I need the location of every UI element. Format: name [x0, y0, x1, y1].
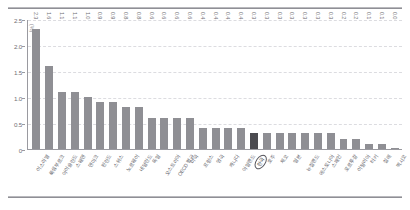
x-axis-tick-slot: 터키	[363, 152, 376, 196]
bar-slot[interactable]: 0.3	[248, 20, 261, 149]
y-axis-tick-label: 1.5	[14, 69, 22, 76]
bar[interactable]: 0.8	[135, 107, 143, 149]
bar-slot[interactable]: 1.6	[43, 20, 56, 149]
bar[interactable]: 0.3	[276, 133, 284, 149]
bar-slot[interactable]: 0.9	[107, 20, 120, 149]
y-axis-tick-label: 1.0	[14, 95, 22, 102]
bar-slot[interactable]: 1.0	[81, 20, 94, 149]
bar-slot[interactable]: 0.3	[324, 20, 337, 149]
bar-slot[interactable]: 0.2	[350, 20, 363, 149]
bar-value-label: 0.4	[213, 12, 219, 19]
bar-slot[interactable]: 0.4	[196, 20, 209, 149]
x-axis-tick-slot: 스웨덴	[67, 152, 80, 196]
bar[interactable]: 0.4	[199, 128, 207, 149]
bar-series: 2.31.61.11.11.00.90.90.80.80.60.60.60.60…	[29, 20, 402, 149]
bar-value-label: 0.1	[379, 12, 385, 19]
bar-value-label: 0.1	[366, 12, 372, 19]
bar-value-label: 0.8	[123, 12, 129, 19]
bar-slot[interactable]: 1.1	[68, 20, 81, 149]
bar[interactable]: 0.6	[148, 118, 156, 149]
x-axis-tick-slot: 이탈리아	[350, 152, 363, 196]
x-axis-tick-slot: 아일랜드	[234, 152, 247, 196]
bar-value-label: 0.3	[251, 12, 257, 19]
plot-area: 2.31.61.11.11.00.90.90.80.80.60.60.60.60…	[27, 20, 402, 150]
bar-slot[interactable]: 2.3	[30, 20, 43, 149]
top-divider-rule	[8, 7, 402, 9]
bar-slot[interactable]: 0.1	[363, 20, 376, 149]
bar[interactable]: 0.2	[340, 139, 348, 149]
bar-slot[interactable]: 0.4	[222, 20, 235, 149]
bar[interactable]: 0.3	[301, 133, 309, 149]
bar-slot[interactable]: 0.8	[120, 20, 133, 149]
bar[interactable]: 0.3	[314, 133, 322, 149]
bar-slot[interactable]: 0.1	[376, 20, 389, 149]
bar-slot[interactable]: 0.3	[260, 20, 273, 149]
bar-value-label: 0.4	[225, 12, 231, 19]
bar-value-label: 0.6	[161, 12, 167, 19]
bar-slot[interactable]: 0.6	[158, 20, 171, 149]
x-axis-tick-slot: 한국	[247, 152, 260, 196]
bar[interactable]: 0.9	[96, 102, 104, 149]
bar-slot[interactable]: 0.6	[171, 20, 184, 149]
bar[interactable]: 0.1	[378, 144, 386, 149]
bar[interactable]: 0.3	[288, 133, 296, 149]
x-axis-tick-slot: 영국	[209, 152, 222, 196]
y-axis-tick-label: 0.5	[14, 121, 22, 128]
bar-slot[interactable]: 0.4	[235, 20, 248, 149]
bar-slot[interactable]: 0.2	[337, 20, 350, 149]
y-axis: 00.51.01.52.02.5	[0, 20, 26, 150]
bar[interactable]: 0.2	[352, 139, 360, 149]
bar-value-label: 2.3	[33, 12, 39, 19]
bar[interactable]: 1.1	[58, 92, 66, 149]
y-axis-tick-mark	[22, 124, 25, 125]
bar[interactable]: 0.4	[224, 128, 232, 149]
bar-value-label: 0.3	[302, 12, 308, 19]
bar-value-label: 0.3	[315, 12, 321, 19]
x-axis-tick-label: 멕시코	[394, 153, 408, 169]
x-axis-tick-slot: 프랑스	[196, 152, 209, 196]
bar[interactable]: 0.0	[391, 148, 399, 149]
bar-slot[interactable]: 0.3	[286, 20, 299, 149]
bar[interactable]: 0.9	[109, 102, 117, 149]
bar[interactable]: 0.4	[237, 128, 245, 149]
bar-slot[interactable]: 0.4	[209, 20, 222, 149]
x-axis-tick-labels: 이스라엘룩셈부르크아이슬란드스웨덴덴마크핀란드스위스노르웨이네덜란드독일오스트리…	[28, 152, 402, 196]
bar-slot[interactable]: 0.3	[312, 20, 325, 149]
bar-slot[interactable]: 1.1	[56, 20, 69, 149]
bar-slot[interactable]: 0.3	[299, 20, 312, 149]
y-axis-tick-mark	[22, 72, 25, 73]
bar[interactable]: 1.1	[71, 92, 79, 149]
bar-slot[interactable]: 0.6	[145, 20, 158, 149]
bar[interactable]: 0.1	[365, 144, 373, 149]
bar-value-label: 1.1	[59, 12, 65, 19]
bar[interactable]: 0.6	[160, 118, 168, 149]
x-axis-tick-slot: 스페인	[324, 152, 337, 196]
bar[interactable]: 0.8	[122, 107, 130, 149]
bar[interactable]: 0.6	[186, 118, 194, 149]
y-axis-tick-label: 2.5	[14, 17, 22, 24]
bar[interactable]: 1.0	[84, 97, 92, 149]
bar-highlighted[interactable]: 0.3	[250, 133, 258, 149]
bar-slot[interactable]: 0.0	[388, 20, 401, 149]
x-axis-tick-slot: 아이슬란드	[55, 152, 68, 196]
x-axis-tick-slot: 호주	[260, 152, 273, 196]
x-axis-tick-slot: 핀란드	[93, 152, 106, 196]
bar-value-label: 0.4	[238, 12, 244, 19]
bar-value-label: 0.4	[200, 12, 206, 19]
bar-slot[interactable]: 0.3	[273, 20, 286, 149]
bar[interactable]: 1.6	[45, 66, 53, 149]
bar[interactable]: 0.4	[212, 128, 220, 149]
bar[interactable]: 2.3	[32, 29, 40, 149]
x-axis-tick-slot: 미국	[183, 152, 196, 196]
bar[interactable]: 0.3	[263, 133, 271, 149]
bar-slot[interactable]: 0.9	[94, 20, 107, 149]
x-axis-tick-slot: 에스토니아	[311, 152, 324, 196]
x-axis-tick-slot: 체코	[273, 152, 286, 196]
bar[interactable]: 0.6	[173, 118, 181, 149]
bar-slot[interactable]: 0.6	[184, 20, 197, 149]
bar-slot[interactable]: 0.8	[132, 20, 145, 149]
bar[interactable]: 0.3	[327, 133, 335, 149]
x-axis-tick-slot: 스위스	[106, 152, 119, 196]
y-axis-tick-mark	[22, 46, 25, 47]
bar-value-label: 0.6	[174, 12, 180, 19]
